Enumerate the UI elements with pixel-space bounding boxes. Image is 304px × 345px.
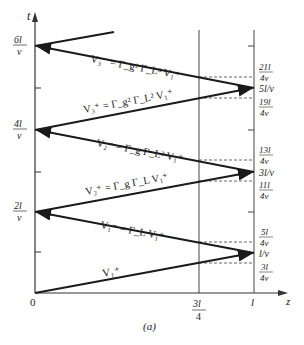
- right-label-11l4v: 11l 4v: [259, 180, 273, 201]
- svg-text:4v: 4v: [260, 191, 269, 201]
- origin-label: 0: [30, 296, 36, 308]
- right-label-19l4v: 19l 4v: [259, 97, 273, 118]
- bounce-diagram: t z 0 3l 4 l 2l v 4l v 6l v 3l 4v 5l 4v …: [0, 0, 304, 345]
- svg-text:v: v: [17, 212, 22, 223]
- wave-v4-plus: [35, 32, 114, 46]
- t-axis: [32, 12, 41, 293]
- svg-text:4: 4: [196, 311, 201, 322]
- label-v2-plus: V₂⁺ = Γ_g Γ_L V₁⁺: [84, 171, 169, 197]
- right-label-5lv: 5l/v: [259, 83, 275, 94]
- left-label-4lv: 4l v: [13, 118, 27, 141]
- svg-text:5l: 5l: [261, 227, 269, 237]
- left-label-6lv: 6l v: [13, 34, 27, 57]
- right-label-13l4v: 13l 4v: [259, 145, 273, 166]
- right-label-lv: l/v: [259, 248, 270, 259]
- left-label-2lv: 2l v: [13, 200, 27, 223]
- svg-text:v: v: [17, 46, 22, 57]
- z-axis-label: z: [285, 295, 291, 307]
- wave-v1-plus: [35, 253, 252, 293]
- label-v3-plus: V₃⁺ = Γ_g² Γ_L² V₁⁺: [82, 88, 174, 115]
- x-tick-3l4: 3l 4: [192, 298, 206, 322]
- svg-text:v: v: [17, 130, 22, 141]
- right-label-3l4v: 3l 4v: [259, 262, 273, 283]
- svg-text:21l: 21l: [259, 62, 271, 72]
- svg-text:19l: 19l: [259, 97, 271, 107]
- t-axis-label: t: [27, 9, 31, 23]
- svg-text:4v: 4v: [260, 238, 269, 248]
- svg-text:13l: 13l: [259, 145, 271, 155]
- figure-caption: (a): [143, 320, 156, 333]
- label-v3-minus: V₃⁻ = Γ_g² Γ_L³ V₁⁺: [90, 53, 182, 80]
- svg-text:4v: 4v: [260, 108, 269, 118]
- right-label-3lv: 3l/v: [258, 167, 275, 178]
- svg-text:11l: 11l: [259, 180, 270, 190]
- right-label-21l4v: 21l 4v: [259, 62, 273, 83]
- svg-text:4l: 4l: [14, 118, 22, 129]
- svg-text:3l: 3l: [192, 298, 201, 309]
- svg-text:4v: 4v: [260, 156, 269, 166]
- svg-text:2l: 2l: [14, 200, 22, 211]
- svg-text:4v: 4v: [260, 273, 269, 283]
- label-v1-minus: V₁⁻ = Γ_L V₁⁺: [100, 219, 166, 242]
- svg-text:6l: 6l: [14, 34, 22, 45]
- svg-text:4v: 4v: [260, 73, 269, 83]
- label-v2-minus: V₂⁻ = Γ_g Γ_L² V₁⁺: [96, 137, 185, 164]
- t-axis-arrow-icon: [32, 12, 38, 22]
- right-label-5l4v: 5l 4v: [259, 227, 273, 248]
- x-tick-l: l: [251, 296, 254, 308]
- svg-text:3l: 3l: [260, 262, 269, 272]
